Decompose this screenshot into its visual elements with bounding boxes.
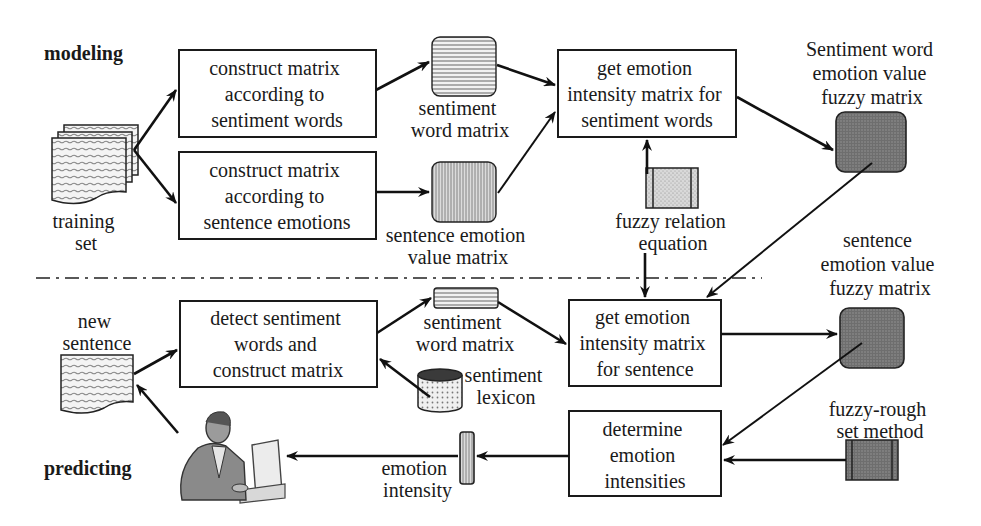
arrow-newsentence-to-detect [134,350,177,374]
predict-sentiment-word-matrix-label: sentiment word matrix [416,311,514,355]
arrow-training-to-emotions [134,150,176,203]
arrow-words-to-matrix [376,62,429,90]
svg-text:construct matrix accordi: construct matrix according to sentiment … [209,57,345,131]
svg-text:construct matrix accordi: construct matrix according to sentence e… [203,159,350,233]
arrow-training-to-words [134,90,176,150]
svg-text:determine emotion: determine emotion intensities [603,418,688,492]
arrow-intensity-to-swfuzzy [737,97,833,150]
construct-matrix-words-box: construct matrix according to sentiment … [179,50,376,137]
se-fuzzy-matrix-icon [840,308,904,368]
svg-text:get emotion intensity ma: get emotion intensity matrix for sentenc… [579,306,710,380]
fuzzy-relation-equation-icon [646,168,698,208]
fuzzy-rough-method-icon [846,440,898,480]
construct-matrix-emotions-box: construct matrix according to sentence e… [179,152,376,239]
sentiment-word-matrix-label: sentiment word matrix [411,97,509,141]
get-intensity-words-box: get emotion intensity matrix for sentime… [558,50,736,137]
emotion-intensity-vector-icon [460,432,474,484]
section-label-modeling: modeling [44,42,123,65]
sentiment-word-matrix-icon [432,37,496,96]
training-set-label: training set [52,210,119,254]
fuzzy-rough-label: fuzzy-rough set method [829,398,932,442]
sentiment-lexicon-database-icon [418,369,462,412]
flow-diagram: modeling predicting training set constru… [0,0,981,526]
arrow-swmatrix-to-intensity [497,65,555,85]
predict-sentiment-word-matrix-icon [434,288,498,308]
new-sentence-document-icon [61,355,133,413]
fuzzy-relation-equation-label: fuzzy relation equation [615,210,731,255]
sentence-emotion-value-matrix-icon [432,162,496,222]
training-set-document-icon [52,125,138,204]
arrow-user-to-newsentence [137,385,178,433]
detect-sentiment-words-box: detect sentiment words and construct mat… [180,301,377,387]
get-intensity-sentence-box: get emotion intensity matrix for sentenc… [569,300,721,386]
sentiment-lexicon-label: sentiment lexicon [465,364,548,408]
new-sentence-label: new sentence [63,310,132,354]
user-at-computer-icon [181,412,285,503]
se-fuzzy-matrix-label: sentence emotion value fuzzy matrix [821,229,940,300]
section-label-predicting: predicting [44,457,131,480]
determine-intensities-box: determine emotion intensities [569,411,721,496]
sw-fuzzy-matrix-label: Sentiment word emotion value fuzzy matri… [806,38,938,109]
emotion-intensity-label: emotion intensity [381,457,452,502]
sentence-emotion-value-matrix-label: sentence emotion value matrix [386,224,530,268]
